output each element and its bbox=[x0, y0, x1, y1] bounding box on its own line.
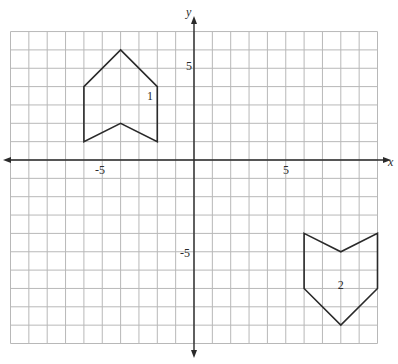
y-axis-down-arrow-icon bbox=[191, 350, 197, 358]
x-tick-label-pos5: 5 bbox=[283, 163, 289, 177]
axes: x y -5 5 5 -5 bbox=[3, 5, 394, 358]
x-axis-left-arrow-icon bbox=[3, 157, 11, 163]
x-tick-label-neg5: -5 bbox=[95, 163, 105, 177]
x-axis-label: x bbox=[387, 155, 394, 169]
y-tick-label-neg5: -5 bbox=[180, 246, 190, 260]
y-tick-label-pos5: 5 bbox=[186, 59, 192, 73]
figure-2-label: 2 bbox=[338, 278, 344, 292]
coordinate-plane: x y -5 5 5 -5 1 2 bbox=[0, 0, 398, 364]
y-axis-up-arrow-icon bbox=[191, 16, 197, 24]
figure-1-label: 1 bbox=[147, 89, 153, 103]
y-axis-label: y bbox=[185, 5, 192, 19]
